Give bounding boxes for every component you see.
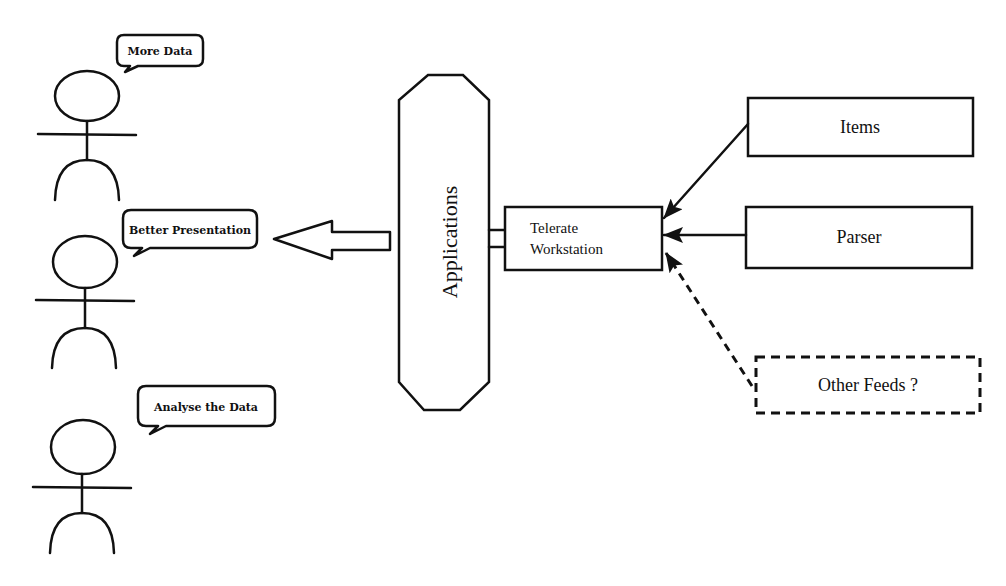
stick-figure-icon	[36, 236, 134, 368]
other-feeds-label: Other Feeds ?	[818, 375, 918, 395]
workstation-label-line2: Workstation	[530, 241, 603, 257]
applications-node: Applications	[399, 75, 489, 410]
speech-text: Better Presentation	[129, 224, 251, 237]
speech-bubble: Analyse the Data	[138, 386, 275, 434]
stick-figure-icon	[38, 71, 136, 200]
speech-bubble: Better Presentation	[123, 210, 257, 256]
other-feeds-node: Other Feeds ?	[756, 357, 980, 413]
speech-bubble: More Data	[117, 35, 203, 72]
items-label: Items	[840, 117, 880, 137]
speech-text: More Data	[127, 45, 192, 58]
workstation-node: Telerate Workstation	[505, 207, 662, 270]
actor-3: Analyse the Data	[33, 386, 275, 553]
applications-workstation-connector	[489, 230, 505, 247]
speech-text: Analyse the Data	[153, 401, 258, 414]
parser-label: Parser	[837, 227, 882, 247]
applications-label: Applications	[437, 186, 462, 298]
actor-1: More Data	[38, 35, 203, 200]
workstation-label-line1: Telerate	[530, 220, 578, 236]
items-node: Items	[748, 98, 973, 156]
actor-2: Better Presentation	[36, 210, 257, 368]
output-arrow-icon	[274, 221, 390, 259]
diagram-canvas: More Data Better Presentation Analyse th…	[0, 0, 1006, 586]
stick-figure-icon	[33, 420, 131, 553]
other-feeds-to-workstation-arrow	[666, 253, 752, 386]
parser-node: Parser	[746, 207, 972, 268]
items-to-workstation-arrow	[664, 124, 748, 218]
